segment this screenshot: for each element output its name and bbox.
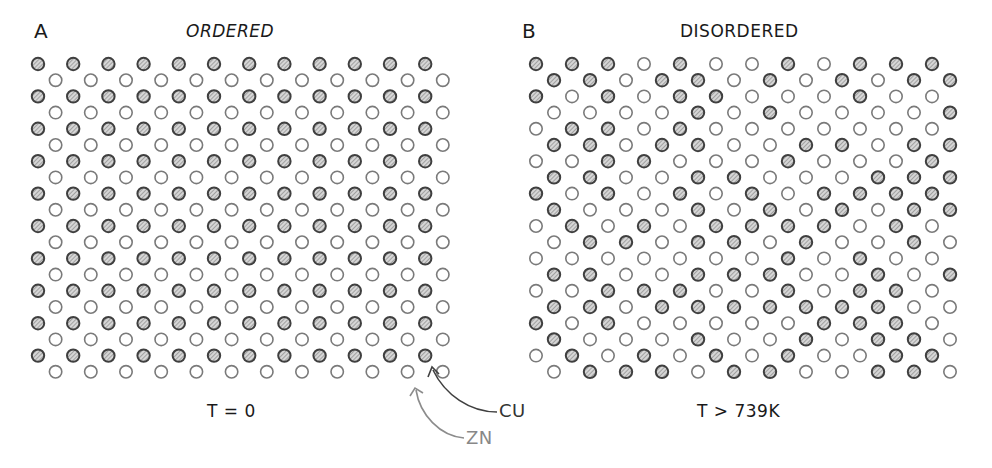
cu-atom xyxy=(872,366,884,378)
cu-atom xyxy=(818,220,830,232)
zn-atom xyxy=(656,171,668,183)
cu-atom xyxy=(243,90,255,102)
cu-atom xyxy=(102,317,114,329)
zn-atom xyxy=(401,204,413,216)
cu-atom xyxy=(872,333,884,345)
zn-atom xyxy=(566,252,578,264)
cu-atom xyxy=(243,187,255,199)
cu-atom xyxy=(692,171,704,183)
cu-atom xyxy=(137,220,149,232)
zn-atom xyxy=(331,139,343,151)
zn-atom xyxy=(728,106,740,118)
zn-atom xyxy=(155,171,167,183)
cu-atom xyxy=(67,252,79,264)
zn-atom xyxy=(890,123,902,135)
zn-atom xyxy=(710,187,722,199)
cu-atom xyxy=(836,204,848,216)
cu-atom xyxy=(243,317,255,329)
cu-atom xyxy=(173,349,185,361)
cu-atom xyxy=(384,285,396,297)
panel-b-letter: B xyxy=(522,19,536,43)
cu-atom xyxy=(102,252,114,264)
zn-atom xyxy=(366,236,378,248)
zn-atom xyxy=(85,366,97,378)
cu-atom xyxy=(890,220,902,232)
cu-atom xyxy=(313,349,325,361)
zn-atom xyxy=(566,155,578,167)
zn-atom xyxy=(584,204,596,216)
cu-atom xyxy=(944,139,956,151)
zn-atom xyxy=(746,252,758,264)
cu-atom xyxy=(208,317,220,329)
zn-atom xyxy=(728,204,740,216)
zn-atom xyxy=(566,90,578,102)
cu-atom xyxy=(313,155,325,167)
zn-atom xyxy=(908,268,920,280)
zn-atom xyxy=(401,74,413,86)
zn-atom xyxy=(120,268,132,280)
cu-atom xyxy=(313,58,325,70)
zn-atom xyxy=(261,301,273,313)
cu-atom xyxy=(243,58,255,70)
cu-atom xyxy=(764,106,776,118)
cu-atom xyxy=(313,252,325,264)
zn-atom xyxy=(120,139,132,151)
cu-atom xyxy=(419,123,431,135)
cu-atom xyxy=(384,317,396,329)
cu-atom xyxy=(800,301,812,313)
cu-atom xyxy=(908,204,920,216)
zn-atom xyxy=(120,171,132,183)
cu-atom xyxy=(313,285,325,297)
cu-atom xyxy=(908,236,920,248)
cu-atom xyxy=(419,90,431,102)
cu-atom xyxy=(384,187,396,199)
zn-atom xyxy=(437,268,449,280)
cu-atom xyxy=(728,268,740,280)
cu-atom xyxy=(818,317,830,329)
cu-atom xyxy=(692,204,704,216)
cu-atom xyxy=(638,285,650,297)
zn-atom xyxy=(190,74,202,86)
cu-atom xyxy=(602,285,614,297)
zn-atom xyxy=(331,366,343,378)
zn-atom xyxy=(782,187,794,199)
cu-atom xyxy=(602,187,614,199)
cu-atom xyxy=(208,90,220,102)
zn-atom xyxy=(728,74,740,86)
cu-atom xyxy=(137,349,149,361)
zn-atom xyxy=(49,171,61,183)
zn-atom xyxy=(261,171,273,183)
zn-atom xyxy=(944,301,956,313)
zn-atom xyxy=(638,123,650,135)
cu-atom xyxy=(656,366,668,378)
cu-atom xyxy=(419,252,431,264)
cu-atom xyxy=(764,74,776,86)
zn-atom xyxy=(638,58,650,70)
zn-atom xyxy=(728,139,740,151)
zn-atom xyxy=(155,204,167,216)
cu-atom xyxy=(692,236,704,248)
cu-atom xyxy=(854,285,866,297)
zn-atom xyxy=(225,236,237,248)
zn-atom xyxy=(401,139,413,151)
zn-atom xyxy=(854,155,866,167)
cu-atom xyxy=(602,123,614,135)
zn-atom xyxy=(190,268,202,280)
zn-atom xyxy=(638,187,650,199)
zn-atom xyxy=(401,236,413,248)
cu-atom xyxy=(944,171,956,183)
zn-atom xyxy=(656,333,668,345)
cu-atom xyxy=(278,317,290,329)
cu-atom xyxy=(173,90,185,102)
zn-atom xyxy=(261,204,273,216)
zn-atom xyxy=(620,301,632,313)
cu-atom xyxy=(102,220,114,232)
zn-atom xyxy=(225,366,237,378)
zn-atom xyxy=(296,74,308,86)
zn-atom xyxy=(656,236,668,248)
zn-atom xyxy=(85,204,97,216)
cu-atom xyxy=(908,171,920,183)
zn-atom xyxy=(296,106,308,118)
cu-atom xyxy=(208,220,220,232)
cu-atom xyxy=(782,349,794,361)
